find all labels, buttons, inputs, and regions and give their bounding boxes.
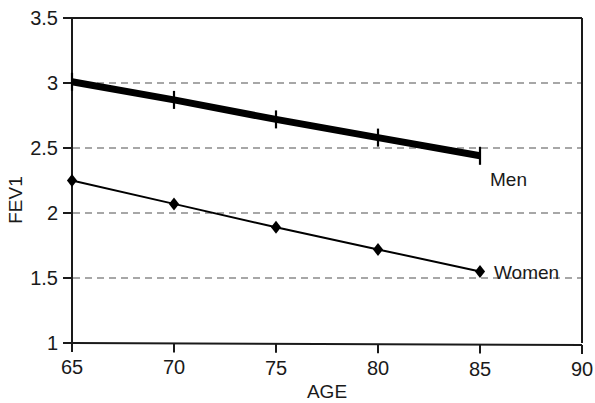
y-axis-title: FEV1 [5,176,26,224]
x-tick-label: 65 [61,356,83,378]
data-series-layer [67,73,485,278]
y-tick-label: 2.5 [30,137,58,159]
series-label-women: Women [494,262,559,283]
y-tick-label: 3 [47,72,58,94]
x-axis-title: AGE [307,381,347,402]
data-point-marker [67,174,77,187]
x-tick-label: 70 [163,356,185,378]
x-tick-label: 85 [469,358,491,380]
y-axis: 11.522.533.5 [30,7,72,354]
x-tick-label: 80 [367,357,389,379]
y-tick-label: 2 [47,202,58,224]
data-point-marker [475,265,485,278]
data-point-marker [373,243,383,256]
data-point-marker [271,221,281,234]
y-tick-label: 1.5 [30,267,58,289]
chart-figure: 11.522.533.5 657075808590 MenWomen FEV1 … [0,0,595,403]
y-tick-label: 1 [47,332,58,354]
series-label-men: Men [490,169,527,190]
x-axis: 657075808590 [61,343,593,380]
series-inline-labels: MenWomen [490,169,559,283]
fev1-vs-age-line-chart: 11.522.533.5 657075808590 MenWomen FEV1 … [0,0,595,403]
data-point-marker [169,197,179,210]
y-tick-label: 3.5 [30,7,58,29]
x-tick-label: 90 [571,358,593,380]
x-tick-label: 75 [265,357,287,379]
